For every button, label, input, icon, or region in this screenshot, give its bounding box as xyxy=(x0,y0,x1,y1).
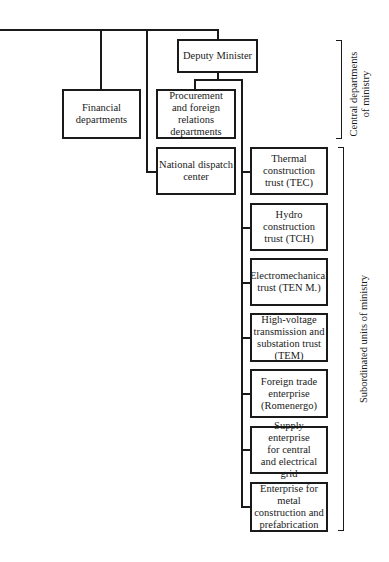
subordinated-group-bracket xyxy=(338,147,344,531)
supply-enterprise-label: Supply enterprise for central and electr… xyxy=(253,420,325,480)
financial-connector-line xyxy=(100,29,102,89)
subordinate-trunk-line xyxy=(241,79,243,508)
deputy-minister-label: Deputy Minister xyxy=(183,50,252,62)
deputy-connector-line xyxy=(217,29,219,39)
high-voltage-trust-label: High-voltage transmission and substation… xyxy=(254,314,325,362)
financial-departments-label: Financial departments xyxy=(76,102,127,126)
financial-departments-box: Financial departments xyxy=(62,89,141,139)
subordinated-group-label: Subordinated units of ministry xyxy=(358,264,372,414)
national-dispatch-box: National dispatch center xyxy=(156,147,236,195)
central-group-label: Central departments of ministry xyxy=(348,39,374,149)
hydro-trust-label: Hydro construction trust (TCH) xyxy=(263,209,315,245)
foreign-trade-box: Foreign trade enterprise (Romenergo) xyxy=(250,369,328,418)
procurement-label: Procurement and foreign relations depart… xyxy=(169,90,223,138)
metal-enterprise-label: Enterprise for metal construction and pr… xyxy=(254,483,324,531)
central-group-bracket xyxy=(336,40,342,139)
branch-horizontal-line xyxy=(194,79,242,81)
foreign-trade-label: Foreign trade enterprise (Romenergo) xyxy=(261,376,317,412)
deputy-minister-box: Deputy Minister xyxy=(177,39,258,73)
procurement-connector-line xyxy=(194,79,196,89)
national-dispatch-label: National dispatch center xyxy=(159,159,233,183)
high-voltage-trust-box: High-voltage transmission and substation… xyxy=(250,313,328,362)
top-connector-line xyxy=(0,29,218,31)
electromechanical-trust-label: Electromechanical trust (TEN M.) xyxy=(250,270,328,294)
procurement-box: Procurement and foreign relations depart… xyxy=(156,89,236,139)
dispatch-stub-line xyxy=(146,171,156,173)
thermal-trust-box: Thermal construction trust (TEC) xyxy=(250,147,328,195)
thermal-trust-label: Thermal construction trust (TEC) xyxy=(263,153,315,189)
supply-enterprise-box: Supply enterprise for central and electr… xyxy=(250,426,328,474)
dispatch-connector-line xyxy=(146,29,148,172)
metal-enterprise-box: Enterprise for metal construction and pr… xyxy=(250,482,328,532)
hydro-trust-box: Hydro construction trust (TCH) xyxy=(250,203,328,251)
electromechanical-trust-box: Electromechanical trust (TEN M.) xyxy=(250,258,328,306)
